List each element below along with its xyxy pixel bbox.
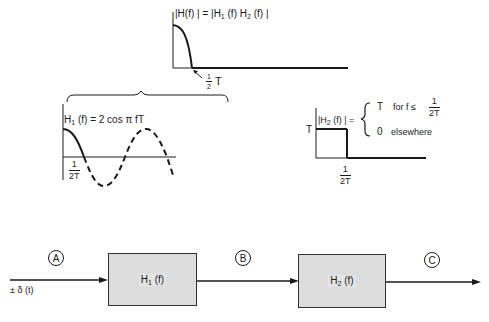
h2-case1-condition: for f ≤	[393, 103, 416, 112]
frac-den: 2T	[69, 172, 80, 181]
point-b-marker: B	[235, 250, 251, 266]
title-part: |H(f) | = |H	[175, 8, 221, 19]
h2-plot-label: |H2 (f) | =	[318, 116, 354, 126]
frac-num: 1	[206, 73, 212, 80]
top-plot-axes	[173, 12, 348, 78]
h2-level-label: T	[306, 125, 312, 135]
top-plot-title: |H(f) | = |H1 (f) H2 (f) |	[175, 9, 268, 20]
h2-block-label: H2 (f)	[328, 275, 355, 287]
label-part: H	[141, 274, 148, 285]
label-part: (f)	[341, 275, 353, 286]
frac-den: 2T	[429, 109, 440, 118]
label-part: (f) = 2 cos π fT	[75, 114, 144, 125]
frac-bar	[206, 81, 212, 82]
top-cutoff-suffix: T	[215, 76, 222, 87]
h1-block-label: H1 (f)	[139, 274, 166, 286]
h2-case2-value: 0	[377, 127, 383, 137]
label-part: (f)	[152, 274, 164, 285]
label-part: H	[330, 275, 337, 286]
h2-case2-condition: elsewhere	[391, 128, 432, 137]
frac-num: 1	[71, 160, 78, 169]
frac-num: 1	[342, 165, 349, 174]
top-cutoff-fraction: 1 2	[206, 73, 212, 90]
frac-den: 2T	[340, 177, 351, 186]
h1-plot-label: H1 (f) = 2 cos π fT	[64, 115, 144, 126]
input-signal-label: ± δ (t)	[10, 286, 33, 295]
h1-filter-block: H1 (f)	[108, 253, 197, 306]
h2-case1-fraction: 1 2T	[429, 97, 440, 118]
frac-den: 2	[207, 83, 211, 90]
label-part: (f) | =	[331, 115, 355, 125]
h2-filter-block: H2 (f)	[298, 254, 386, 308]
frac-num: 1	[431, 97, 438, 106]
point-c-marker: C	[424, 252, 440, 268]
h2-tick-fraction: 1 2T	[340, 165, 351, 186]
label-part: |H	[318, 115, 327, 125]
h1-tick-fraction: 1 2T	[69, 160, 80, 181]
title-part: (f) H	[225, 8, 247, 19]
h2-case1-value: T	[377, 102, 383, 112]
signal-path	[10, 277, 481, 285]
point-a-marker: A	[48, 250, 64, 266]
title-part: (f) |	[251, 8, 269, 19]
brace	[67, 91, 228, 102]
